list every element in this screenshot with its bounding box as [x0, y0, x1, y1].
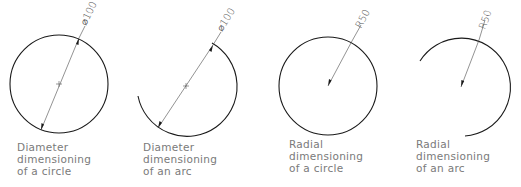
caption-diameter-circle: Diameter dimensioning of a circle — [17, 142, 91, 177]
caption-line: dimensioning — [143, 154, 217, 166]
figure-radial-arc: R50 — [420, 8, 510, 136]
caption-line: dimensioning — [416, 151, 490, 163]
dimension-text: R50 — [477, 8, 494, 30]
arc-shape — [138, 43, 237, 136]
figure-diameter-circle: ⌀100 — [10, 0, 108, 133]
caption-line: of an arc — [416, 163, 490, 175]
radius-dimension-line — [461, 40, 479, 87]
arrowhead-icon — [209, 45, 213, 52]
dimension-text: R50 — [353, 7, 372, 30]
arrowhead-icon — [461, 80, 464, 87]
leader-line — [213, 32, 221, 45]
diameter-dimension-line — [158, 45, 213, 128]
leader-line — [79, 26, 85, 38]
caption-line: of an arc — [143, 166, 217, 178]
caption-radial-arc: Radial dimensioning of an arc — [416, 139, 490, 174]
arrowhead-icon — [158, 121, 162, 128]
dimension-text: ⌀100 — [214, 6, 237, 33]
caption-diameter-arc: Diameter dimensioning of an arc — [143, 142, 217, 177]
arc-shape — [420, 38, 510, 136]
figure-diameter-arc: ⌀100 — [138, 6, 237, 136]
radius-dimension-line — [328, 41, 352, 86]
caption-line: dimensioning — [289, 151, 363, 163]
dimension-text: ⌀100 — [78, 0, 99, 27]
caption-line: of a circle — [289, 163, 363, 175]
caption-radial-circle: Radial dimensioning of a circle — [289, 139, 363, 174]
figure-radial-circle: R50 — [279, 7, 377, 135]
diameter-dimension-line — [41, 38, 79, 130]
caption-line: of a circle — [17, 166, 91, 178]
caption-line: dimensioning — [17, 154, 91, 166]
